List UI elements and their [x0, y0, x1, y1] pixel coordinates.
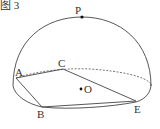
hemisphere-diagram: 图 3 P O A C B E: [0, 0, 160, 129]
quadrilateral-ACEB: [16, 69, 136, 107]
label-C: C: [58, 57, 65, 69]
figure-caption: 图 3: [0, 0, 20, 11]
dome-arc: [13, 17, 151, 86]
label-E: E: [134, 103, 141, 115]
label-O: O: [84, 83, 92, 95]
point-O-dot: [80, 88, 83, 91]
label-A: A: [15, 66, 23, 78]
label-B: B: [37, 108, 44, 120]
label-P: P: [75, 4, 81, 16]
base-ellipse-hidden: [16, 69, 151, 84]
